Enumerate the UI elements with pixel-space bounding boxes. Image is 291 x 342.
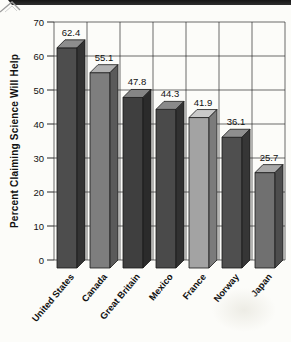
- y-tick-label: 0: [39, 255, 44, 266]
- y-tick-label: 40: [33, 119, 44, 130]
- y-tick-label: 50: [33, 85, 44, 96]
- bar-great-britain-side: [143, 89, 151, 268]
- x-tick-label-mexico: Mexico: [147, 272, 175, 303]
- bar-united-states-front: [57, 48, 77, 268]
- bar-value-label: 36.1: [227, 116, 246, 127]
- bar-mexico-front: [156, 109, 176, 268]
- bar-norway-front: [222, 137, 242, 268]
- paper-smudge: [212, 288, 276, 332]
- y-tick-label: 60: [33, 51, 44, 62]
- bar-great-britain-front: [123, 97, 143, 268]
- y-tick-label: 10: [33, 221, 44, 232]
- page: 01020304050607062.455.147.844.341.936.12…: [0, 0, 291, 342]
- bar-value-label: 62.4: [62, 27, 81, 38]
- y-tick-label: 30: [33, 153, 44, 164]
- y-axis-title: Percent Claiming Science Will Help: [9, 16, 23, 266]
- bar-value-label: 47.8: [128, 76, 147, 87]
- bar-value-label: 25.7: [260, 152, 279, 163]
- x-tick-label-france: France: [181, 272, 208, 302]
- bar-japan-side: [275, 165, 283, 268]
- bar-canada-side: [110, 65, 118, 268]
- bar-value-label: 55.1: [95, 52, 114, 63]
- bar-mexico-side: [176, 101, 184, 268]
- bar-value-label: 41.9: [194, 97, 213, 108]
- bar-france-front: [189, 118, 209, 268]
- x-tick-label-canada: Canada: [80, 271, 110, 304]
- bar-norway-side: [242, 129, 250, 268]
- bar-united-states-side: [77, 40, 85, 268]
- bar-value-label: 44.3: [161, 88, 180, 99]
- y-tick-label: 70: [33, 17, 44, 28]
- x-tick-label-united-states: United States: [30, 272, 76, 324]
- bar-japan-front: [255, 173, 275, 268]
- bar-france-side: [209, 110, 217, 268]
- y-tick-label: 20: [33, 187, 44, 198]
- bar-canada-front: [90, 73, 110, 268]
